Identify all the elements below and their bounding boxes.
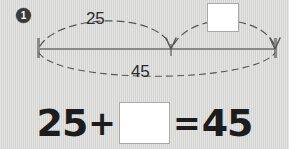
equation-equals-operator: = [173,107,201,140]
equation-plus-operator: + [88,107,116,140]
bar-model-whole-label: 45 [131,62,149,82]
equation-missing-term-answer-box[interactable] [119,102,170,144]
equation-left-term: 25 [36,104,87,142]
equation-row: 25 + = 45 [0,97,289,149]
worksheet-problem-card: 1 25 45 25 + = 45 [0,0,289,149]
diagram-missing-part-answer-box[interactable] [207,3,239,32]
arc-whole-45 [39,53,275,76]
arc-part-25 [40,21,170,46]
bar-model-part-label: 25 [86,9,104,29]
equation-right-term: 45 [202,104,253,142]
